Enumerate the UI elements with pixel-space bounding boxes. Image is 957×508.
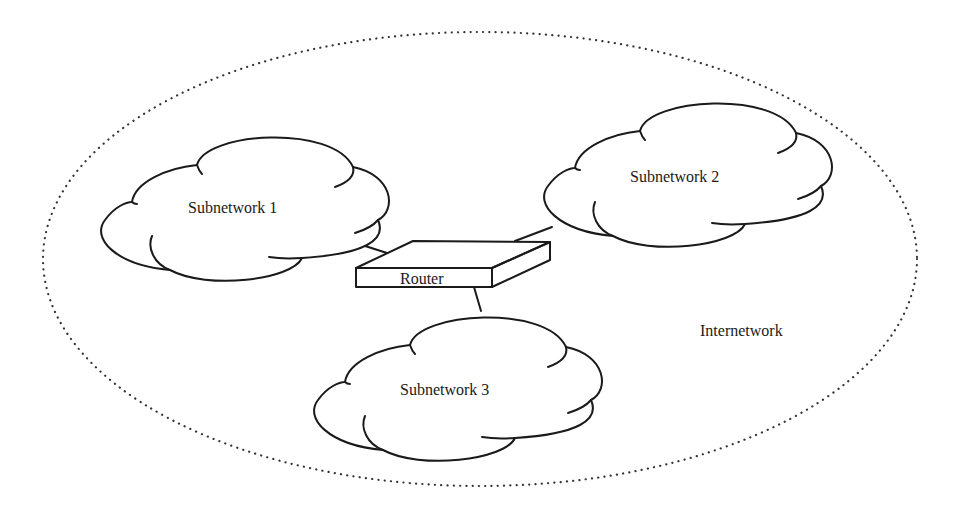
subnetwork-3-label: Subnetwork 3: [400, 381, 489, 398]
subnetwork-3-cloud: Subnetwork 3: [314, 317, 602, 460]
link-router-subnet2: [515, 227, 552, 241]
router-side-face: [492, 242, 550, 287]
subnetwork-2-label: Subnetwork 2: [630, 168, 719, 185]
network-diagram: Subnetwork 1 Subnetwork 2 Subnetwork 3 R…: [0, 0, 957, 508]
subnetwork-2-cloud: Subnetwork 2: [544, 103, 832, 246]
link-router-subnet3: [474, 287, 481, 311]
internetwork-label: Internetwork: [700, 322, 783, 339]
router-device: Router: [356, 241, 550, 287]
subnetwork-1-label: Subnetwork 1: [188, 199, 277, 216]
router-label: Router: [400, 270, 444, 287]
subnetwork-1-cloud: Subnetwork 1: [101, 137, 389, 280]
